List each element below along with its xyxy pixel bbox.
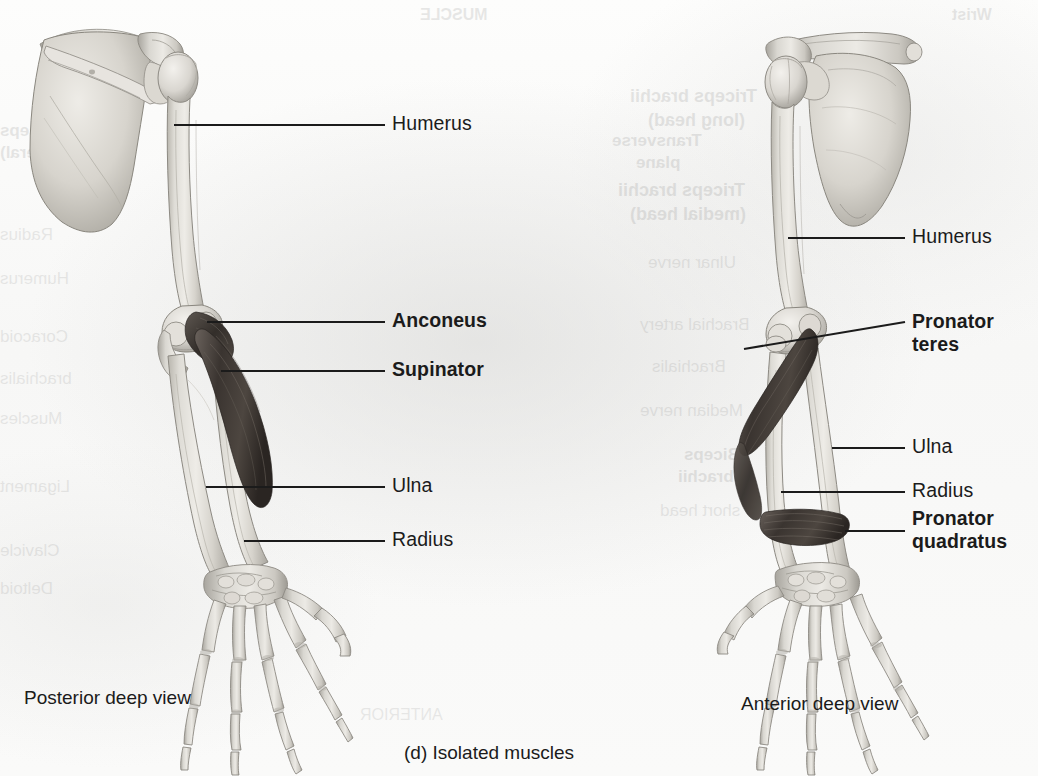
caption-panel: (d) Isolated muscles <box>404 742 574 764</box>
anterior-label-radius: Radius <box>912 479 973 502</box>
right-hand <box>717 586 929 775</box>
anterior-label-pronator-quadratus-line-1: Pronator <box>912 507 1007 530</box>
right-carpals <box>775 563 859 607</box>
right-forearm-flexor-band <box>734 442 762 520</box>
anterior-label-ulna-line-1: Ulna <box>912 435 953 458</box>
posterior-label-radius-line-1: Radius <box>392 528 453 551</box>
left-humerus <box>167 96 206 322</box>
posterior-label-anconeus-line-1: Anconeus <box>392 309 487 332</box>
right-pronator-quadratus-muscle <box>760 509 849 545</box>
posterior-label-humerus-line-1: Humerus <box>392 112 472 135</box>
caption-anterior-deep-view: Anterior deep view <box>741 693 898 715</box>
anterior-label-pronator-teres-line-2: teres <box>912 333 994 356</box>
left-arm-posterior <box>30 29 353 775</box>
posterior-label-radius: Radius <box>392 528 453 551</box>
anterior-label-pronator-quadratus: Pronatorquadratus <box>912 507 1007 553</box>
anterior-label-pronator-quadratus-line-2: quadratus <box>912 530 1007 553</box>
posterior-label-ulna: Ulna <box>392 474 433 497</box>
right-arm-anterior <box>717 32 929 775</box>
left-hand <box>181 588 353 775</box>
anterior-label-humerus: Humerus <box>912 225 992 248</box>
anterior-label-pronator-teres-line-1: Pronator <box>912 310 994 333</box>
anterior-label-radius-line-1: Radius <box>912 479 973 502</box>
anterior-label-humerus-line-1: Humerus <box>912 225 992 248</box>
posterior-label-supinator: Supinator <box>392 358 484 381</box>
left-humerus-head <box>158 52 198 104</box>
left-scapula <box>30 32 183 232</box>
right-humerus <box>771 102 810 324</box>
right-humerus-head <box>765 56 807 108</box>
caption-posterior-deep-view: Posterior deep view <box>24 687 191 709</box>
anterior-label-ulna: Ulna <box>912 435 953 458</box>
anterior-label-pronator-teres: Pronatorteres <box>912 310 994 356</box>
anatomy-figure <box>0 0 1038 776</box>
posterior-label-humerus: Humerus <box>392 112 472 135</box>
posterior-label-ulna-line-1: Ulna <box>392 474 433 497</box>
posterior-label-anconeus: Anconeus <box>392 309 487 332</box>
posterior-label-supinator-line-1: Supinator <box>392 358 484 381</box>
